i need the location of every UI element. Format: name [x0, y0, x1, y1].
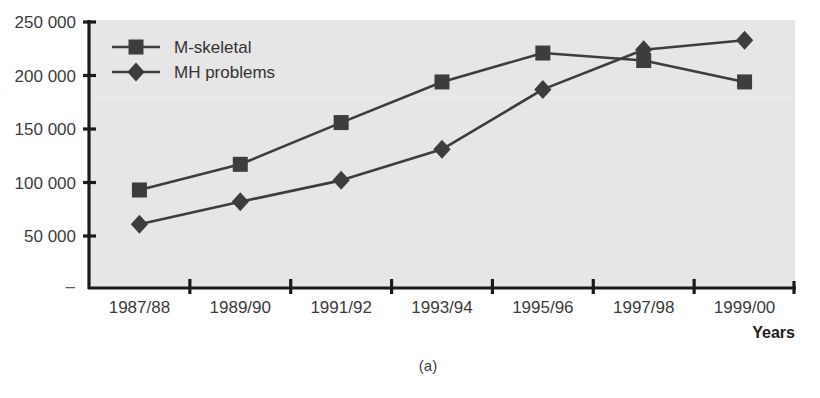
- x-axis-tick-labels: 1987/881989/901991/921993/941995/961997/…: [109, 298, 776, 317]
- y-axis-zero-dash: –: [66, 277, 76, 296]
- y-tick-label: 100 000: [15, 174, 76, 193]
- x-tick-label: 1993/94: [411, 298, 472, 317]
- x-tick-label: 1995/96: [512, 298, 573, 317]
- y-tick-label: 250 000: [15, 13, 76, 32]
- y-tick-label: 200 000: [15, 67, 76, 86]
- x-tick-label: 1991/92: [310, 298, 371, 317]
- scan-band-lower: [89, 244, 795, 247]
- y-tick-label: 50 000: [24, 227, 76, 246]
- legend-label-2: MH problems: [174, 63, 275, 82]
- legend-label-1: M-skeletal: [174, 38, 251, 57]
- data-point-marker-square: [435, 74, 450, 89]
- x-tick-label: 1997/98: [613, 298, 674, 317]
- figure-caption: (a): [419, 357, 437, 374]
- x-axis-title: Years: [752, 324, 795, 341]
- data-point-marker-square: [737, 74, 752, 89]
- data-point-marker-square: [535, 46, 550, 61]
- data-point-marker-square: [129, 40, 144, 55]
- y-tick-label: 150 000: [15, 120, 76, 139]
- x-tick-label: 1989/90: [210, 298, 271, 317]
- data-point-marker-square: [132, 182, 147, 197]
- line-chart-svg: 50 000100 000150 000200 000250 000 – 198…: [0, 0, 820, 398]
- x-tick-label: 1987/88: [109, 298, 170, 317]
- data-point-marker-square: [233, 157, 248, 172]
- y-axis-tick-labels: 50 000100 000150 000200 000250 000: [15, 13, 76, 246]
- scan-band-upper: [89, 96, 795, 99]
- x-tick-label: 1999/00: [714, 298, 775, 317]
- data-point-marker-square: [334, 115, 349, 130]
- chart-figure: 50 000100 000150 000200 000250 000 – 198…: [0, 0, 820, 398]
